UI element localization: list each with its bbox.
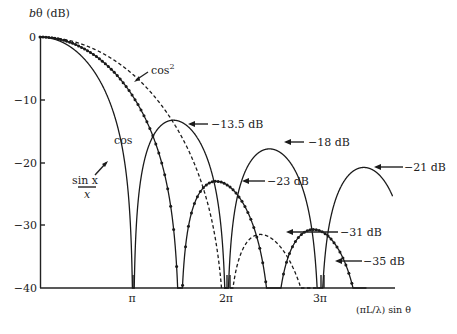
annotation-31: −31 dB [286, 226, 382, 239]
annotation-13-5: −13.5 dB [188, 118, 263, 131]
cos-squared-label: cos2 [151, 62, 175, 77]
x-tick-3pi: 3π [313, 292, 327, 305]
x-axis-label: (πL/λ) sin θ [356, 304, 411, 315]
svg-text:−35 dB: −35 dB [363, 255, 405, 268]
svg-text:x: x [84, 188, 91, 201]
y-axis-label: bθ (dB) [29, 7, 70, 20]
sinc-label: sin x x [72, 174, 99, 201]
svg-text:−18 dB: −18 dB [308, 136, 350, 149]
svg-text:−31 dB: −31 dB [340, 226, 382, 239]
annotation-23: −23 dB [242, 175, 309, 188]
x-tick-2pi: 2π [219, 292, 233, 305]
svg-text:−13.5 dB: −13.5 dB [211, 118, 263, 131]
svg-text:−23 dB: −23 dB [267, 175, 309, 188]
y-tick-30: −30 [14, 219, 37, 232]
svg-text:sin x: sin x [72, 174, 99, 187]
annotation-21: −21 dB [374, 161, 446, 174]
y-tick-10: −10 [14, 94, 37, 107]
radiation-pattern-chart: 0 −10 −20 −30 −40 bθ (dB) π 2π 3π (πL/λ)… [0, 0, 457, 334]
cos-squared-curve [40, 37, 320, 288]
cos-curve-markers [39, 36, 354, 287]
arrowhead-icon [134, 76, 140, 82]
annotation-18: −18 dB [284, 136, 350, 149]
y-tick-20: −20 [14, 157, 37, 170]
x-tick-pi: π [128, 292, 135, 305]
svg-text:−21 dB: −21 dB [404, 161, 446, 174]
cos-curve [40, 37, 366, 288]
y-tick-40: −40 [14, 282, 37, 295]
cos-label: cos [114, 134, 133, 147]
y-tick-0: 0 [29, 31, 36, 44]
